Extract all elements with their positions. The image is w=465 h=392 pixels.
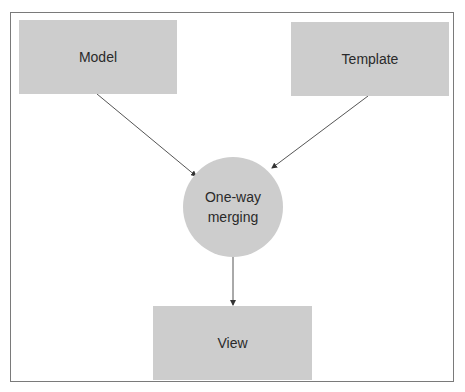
template-node: Template: [291, 22, 449, 96]
model-node: Model: [19, 20, 177, 94]
view-label: View: [217, 335, 247, 351]
template-label: Template: [342, 51, 399, 67]
edge-model-to-merge: [97, 94, 196, 176]
merge-label-line2: merging: [208, 207, 259, 227]
view-node: View: [153, 306, 312, 380]
model-label: Model: [79, 49, 117, 65]
merge-label-line1: One-way: [205, 187, 261, 207]
merge-node: One-way merging: [183, 157, 283, 257]
edge-template-to-merge: [272, 96, 368, 168]
